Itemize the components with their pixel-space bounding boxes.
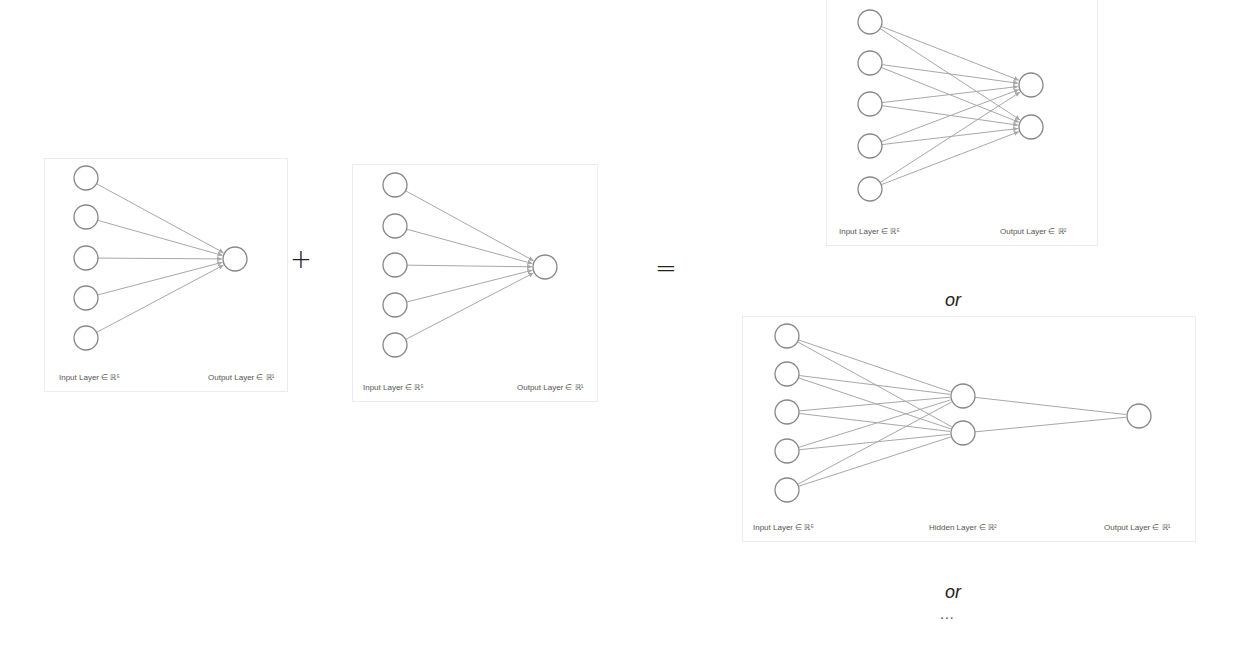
connection-edge bbox=[880, 92, 1020, 182]
input-node bbox=[775, 439, 799, 463]
connection-edge bbox=[881, 132, 1019, 185]
input-node bbox=[383, 333, 407, 357]
connection-edge bbox=[97, 184, 224, 253]
output-node bbox=[1019, 73, 1043, 97]
perceptron-diagram-right: Input Layer ∈ ℝ⁵Output Layer ∈ ℝ¹ bbox=[352, 164, 598, 402]
equals-operator: = bbox=[655, 255, 677, 281]
connection-edge bbox=[407, 265, 532, 267]
network-graph bbox=[743, 317, 1195, 541]
input-node bbox=[858, 92, 882, 116]
network-graph bbox=[827, 0, 1097, 245]
connection-edge bbox=[881, 90, 1019, 142]
connection-edge bbox=[97, 265, 224, 332]
input-node bbox=[383, 253, 407, 277]
network-graph bbox=[45, 159, 287, 391]
or-label-2: or bbox=[945, 582, 961, 603]
layer-label: Output Layer ∈ ℝ¹ bbox=[517, 383, 583, 392]
connection-edge bbox=[406, 273, 534, 339]
connection-edge bbox=[799, 375, 950, 394]
layer-label: Input Layer ∈ ℝ⁵ bbox=[363, 383, 424, 392]
input-node bbox=[383, 293, 407, 317]
hidden-layer-diagram: Input Layer ∈ ℝ⁵Hidden Layer ∈ ℝ²Output … bbox=[742, 316, 1196, 542]
ellipsis: ... bbox=[940, 606, 955, 622]
or-label-1: or bbox=[945, 290, 961, 311]
input-node bbox=[383, 173, 407, 197]
layer-label: Input Layer ∈ ℝ⁵ bbox=[59, 373, 120, 382]
connection-edge bbox=[975, 417, 1126, 432]
connection-edge bbox=[975, 397, 1126, 414]
plus-operator: + bbox=[290, 246, 312, 272]
input-node bbox=[775, 478, 799, 502]
output-node bbox=[533, 255, 557, 279]
output-node bbox=[1127, 404, 1151, 428]
layer-label: Output Layer ∈ ℝ¹ bbox=[1104, 523, 1170, 532]
connection-edge bbox=[799, 434, 950, 449]
connection-edge bbox=[407, 229, 533, 263]
input-node bbox=[858, 10, 882, 34]
layer-label: Input Layer ∈ ℝ⁵ bbox=[753, 523, 814, 532]
output-node bbox=[223, 247, 247, 271]
connection-edge bbox=[406, 191, 534, 261]
connection-edge bbox=[882, 87, 1018, 103]
connection-edge bbox=[798, 402, 952, 484]
input-node bbox=[775, 324, 799, 348]
input-node bbox=[858, 134, 882, 158]
connection-edge bbox=[799, 413, 950, 431]
output-node bbox=[1019, 115, 1043, 139]
input-node bbox=[74, 246, 98, 270]
connection-edge bbox=[882, 129, 1018, 145]
connection-edge bbox=[98, 220, 223, 255]
layer-label: Input Layer ∈ ℝ⁵ bbox=[839, 227, 900, 236]
connection-edge bbox=[881, 26, 1019, 80]
input-node bbox=[383, 214, 407, 238]
layer-label: Hidden Layer ∈ ℝ² bbox=[929, 523, 997, 532]
connection-edge bbox=[407, 270, 533, 302]
input-node bbox=[775, 400, 799, 424]
input-node bbox=[858, 177, 882, 201]
input-node bbox=[74, 205, 98, 229]
connection-edge bbox=[799, 397, 950, 411]
input-node bbox=[74, 166, 98, 190]
layer-label: Output Layer ∈ ℝ¹ bbox=[208, 373, 274, 382]
input-node bbox=[858, 51, 882, 75]
connection-edge bbox=[798, 378, 950, 429]
input-node bbox=[74, 286, 98, 310]
network-graph bbox=[353, 165, 597, 401]
connection-edge bbox=[798, 437, 950, 486]
connection-edge bbox=[882, 65, 1018, 84]
connection-edge bbox=[798, 400, 950, 448]
layer-label: Output Layer ∈ ℝ² bbox=[1000, 227, 1066, 236]
input-node bbox=[775, 362, 799, 386]
hidden-node bbox=[951, 384, 975, 408]
connection-edge bbox=[98, 262, 223, 295]
combined-output-diagram: Input Layer ∈ ℝ⁵Output Layer ∈ ℝ² bbox=[826, 0, 1098, 246]
connection-edge bbox=[98, 258, 222, 259]
input-node bbox=[74, 326, 98, 350]
perceptron-diagram-left: Input Layer ∈ ℝ⁵Output Layer ∈ ℝ¹ bbox=[44, 158, 288, 392]
hidden-node bbox=[951, 421, 975, 445]
